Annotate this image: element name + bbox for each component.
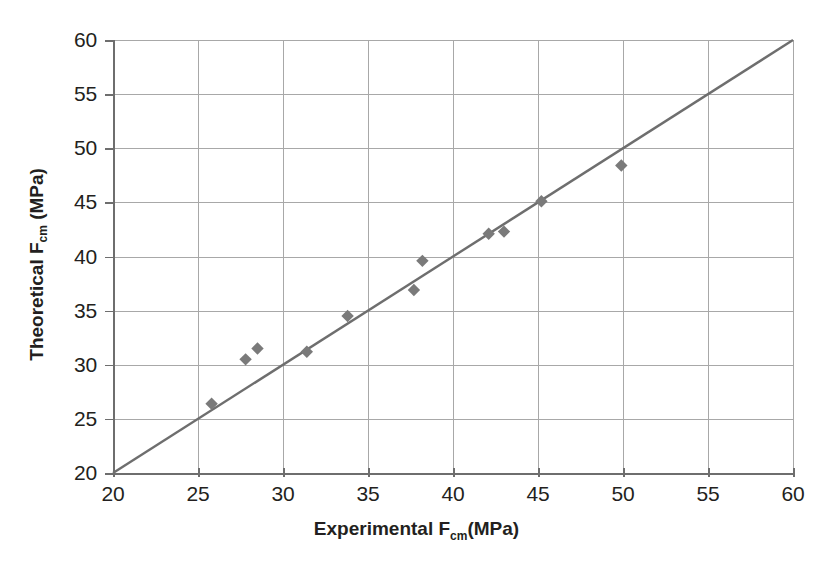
x-axis-title: Experimental Fcm(MPa) — [0, 518, 833, 543]
y-axis-title-pre: Theoretical F — [26, 242, 47, 360]
y-axis-title-post: (MPa) — [26, 168, 47, 225]
x-axis-title-pre: Experimental F — [314, 518, 450, 539]
data-point-marker — [239, 353, 251, 365]
x-axis-tick — [793, 468, 795, 477]
data-point-marker — [408, 284, 420, 296]
y-axis-tick — [105, 311, 114, 313]
data-point-marker — [416, 255, 428, 267]
x-axis-tick — [283, 468, 285, 477]
x-axis-tick — [623, 468, 625, 477]
y-axis-tick — [105, 40, 114, 42]
x-axis-tick — [198, 468, 200, 477]
x-axis-tick — [708, 468, 710, 477]
y-axis-tick — [105, 148, 114, 150]
x-axis-tick — [368, 468, 370, 477]
scatter-chart-figure: 202530354045505560 202530354045505560 Ex… — [0, 0, 833, 565]
data-point-marker — [251, 342, 263, 354]
x-axis-tick — [538, 468, 540, 477]
y-axis-tick — [105, 202, 114, 204]
y-axis-title-sub: cm — [36, 225, 50, 242]
x-axis-tick — [453, 468, 455, 477]
y-axis-tick — [105, 419, 114, 421]
data-layer — [0, 0, 833, 565]
data-point-marker — [615, 159, 627, 171]
x-axis-tick — [113, 468, 115, 477]
x-axis-title-post: (MPa) — [467, 518, 519, 539]
y-axis-tick — [105, 94, 114, 96]
data-point-marker — [483, 228, 495, 240]
x-axis-title-sub: cm — [450, 529, 467, 543]
y-axis-title: Theoretical Fcm (MPa) — [26, 54, 51, 474]
y-axis-tick — [105, 257, 114, 259]
equality-line — [113, 40, 793, 473]
y-axis-tick — [105, 365, 114, 367]
